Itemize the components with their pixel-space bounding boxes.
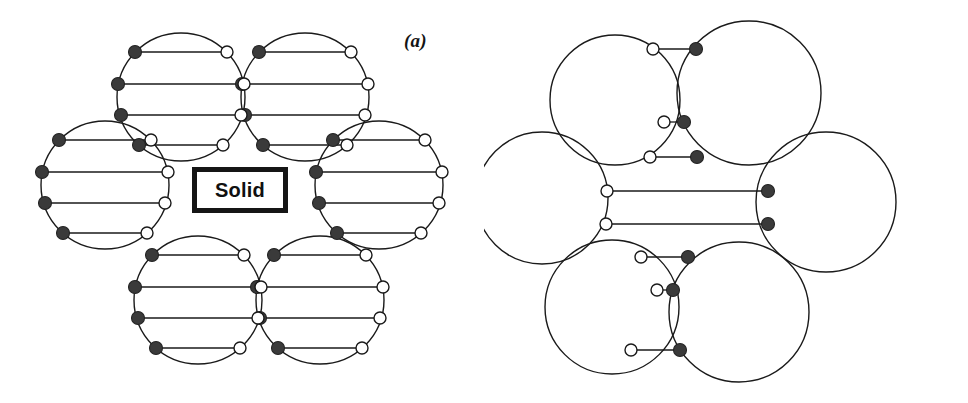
filled-dots-b (667, 43, 775, 357)
open-dot (141, 227, 153, 239)
filled-dot (257, 139, 270, 152)
open-dot (600, 218, 612, 230)
filled-dot (674, 344, 687, 357)
circle-captd-right (756, 132, 896, 272)
open-dot (651, 284, 663, 296)
open-dot (436, 166, 448, 178)
open-dots-b (600, 43, 670, 356)
filled-dots-a (36, 46, 344, 355)
filled-dot (133, 139, 146, 152)
open-dot (255, 281, 267, 293)
panel-a: Solid (a) (0, 0, 484, 403)
circle-outlines-b (484, 21, 896, 382)
filled-dot (272, 342, 285, 355)
filled-dot (132, 312, 145, 325)
filled-dot (150, 342, 163, 355)
open-dot (658, 116, 670, 128)
filled-dot (57, 227, 70, 240)
filled-dot (36, 166, 49, 179)
connector-lines-b (606, 49, 768, 350)
open-dot (601, 185, 613, 197)
open-dots-a (141, 46, 448, 354)
open-dot (415, 227, 427, 239)
filled-dot (762, 218, 775, 231)
filled-dot (762, 185, 775, 198)
filled-dot (678, 116, 691, 129)
open-dot (238, 249, 250, 261)
open-dot (235, 109, 247, 121)
open-dot (341, 139, 353, 151)
open-dot (360, 249, 372, 261)
filled-dot (115, 109, 128, 122)
open-dot (238, 78, 250, 90)
filled-dot (39, 197, 52, 210)
filled-dot (682, 251, 695, 264)
open-dot (362, 78, 374, 90)
filled-dot (129, 281, 142, 294)
open-dot (217, 139, 229, 151)
open-dot (345, 46, 357, 58)
open-dot (377, 281, 389, 293)
filled-dot (253, 46, 266, 59)
filled-dot (331, 227, 344, 240)
open-dot (635, 251, 647, 263)
filled-dot (691, 151, 704, 164)
open-dot (356, 342, 368, 354)
open-dot (159, 197, 171, 209)
open-dot (644, 151, 656, 163)
filled-dot (310, 166, 323, 179)
filled-dot (667, 284, 680, 297)
filled-dot (327, 134, 340, 147)
panel-b: Free Capt'd Free (b) (484, 0, 968, 403)
circle-bottom-left-free (545, 240, 679, 374)
filled-dot (129, 46, 142, 59)
open-dot (221, 46, 233, 58)
open-dot (433, 197, 445, 209)
filled-dot (268, 249, 281, 262)
filled-dot (53, 134, 66, 147)
open-dot (359, 109, 371, 121)
open-dot (625, 344, 637, 356)
filled-dot (313, 197, 326, 210)
open-dot (252, 312, 264, 324)
state-label-solid: Solid (192, 167, 288, 213)
filled-dot (690, 43, 703, 56)
figure-root: Solid (a) (0, 0, 968, 403)
filled-dot (146, 249, 159, 262)
open-dot (647, 43, 659, 55)
open-dot (162, 166, 174, 178)
panel-letter-a: (a) (404, 30, 427, 52)
open-dot (145, 134, 157, 146)
open-dot (374, 312, 386, 324)
panel-b-drawing (484, 0, 968, 403)
filled-dot (112, 78, 125, 91)
open-dot (419, 134, 431, 146)
open-dot (234, 342, 246, 354)
circle-top-left-free (550, 35, 680, 165)
